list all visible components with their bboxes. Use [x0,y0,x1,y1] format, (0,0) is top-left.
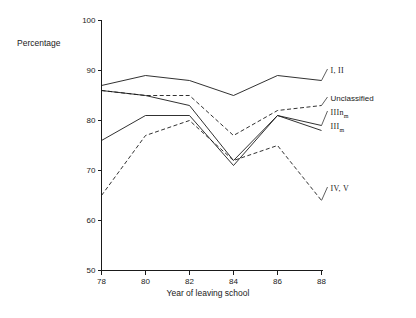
legend-leader-line [322,69,328,81]
series-line-unclassified [102,91,322,136]
y-tick-label: 80 [74,116,96,125]
tick-marks [98,21,322,275]
legend-leader-line [322,111,328,126]
y-tick-label: 100 [74,16,96,25]
series-lines [102,76,322,201]
legend-leader-lines [322,69,328,201]
legend-leader-line [322,97,328,106]
y-tick-label: 70 [74,166,96,175]
x-tick-label: 80 [134,277,158,286]
axis-lines [102,21,323,271]
y-tick-label: 90 [74,66,96,75]
x-tick-label: 82 [178,277,202,286]
series-label-iv-v: IV, V [331,184,350,193]
x-tick-label: 78 [90,277,114,286]
x-tick-label: 88 [310,277,334,286]
series-label-iiinm: IIInm [331,108,349,117]
y-tick-label: 60 [74,216,96,225]
x-tick-label: 84 [222,277,246,286]
y-axis-title: Percentage [17,38,60,48]
chart-container: Percentage Year of leaving school 506070… [0,0,416,318]
y-tick-label: 50 [74,266,96,275]
series-line-i-ii [102,76,322,96]
series-label-subscript: m [344,113,349,119]
series-label-iiim: IIIm [331,122,345,131]
legend-leader-line [322,187,328,201]
line-chart-plot [0,0,416,318]
series-line-iiinm [102,91,322,161]
series-label-main: IIIn [331,108,344,117]
x-axis-title: Year of leaving school [0,288,416,298]
x-tick-label: 86 [266,277,290,286]
series-label-i-ii: I, II [331,66,345,75]
series-label-unclassified: Unclassified [331,94,374,103]
series-label-subscript: m [339,127,344,133]
